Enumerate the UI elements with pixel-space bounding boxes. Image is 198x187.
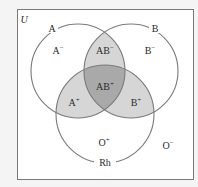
venn-diagram: U A B Rh A− B− AB− AB+ A+ B+ O+ O− bbox=[0, 0, 198, 187]
set-label-a: A bbox=[48, 23, 56, 34]
set-label-rh: Rh bbox=[99, 157, 111, 168]
universe-label: U bbox=[20, 14, 28, 25]
set-label-b: B bbox=[152, 23, 159, 34]
